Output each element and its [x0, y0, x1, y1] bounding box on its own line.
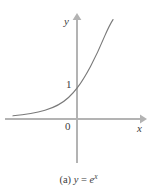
y-axis-label: y [64, 16, 69, 27]
exponential-curve [13, 20, 113, 116]
x-axis-label: x [137, 123, 142, 134]
caption-part-label: (a) [59, 174, 71, 185]
figure-caption: (a) y = ex [0, 174, 157, 187]
y-axis-arrow-icon [73, 13, 82, 20]
y-tick-label-one: 1 [66, 79, 72, 90]
origin-label-zero: 0 [65, 121, 71, 132]
plot-area [0, 0, 157, 170]
caption-exponent: x [94, 172, 97, 181]
figure-exponential-graph: y x 1 0 (a) y = ex [0, 0, 157, 194]
